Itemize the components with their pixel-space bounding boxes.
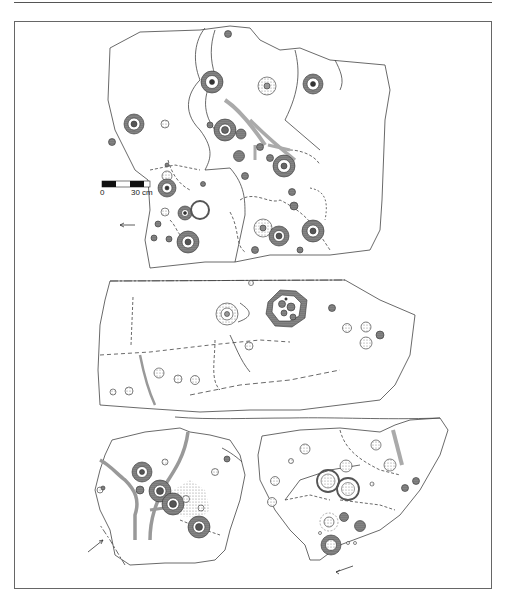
lower-left-cupules bbox=[97, 456, 230, 538]
scale-start-label: 0 bbox=[100, 188, 104, 197]
lower-right-cupules bbox=[268, 440, 420, 555]
north-arrow-lower-left bbox=[88, 540, 103, 552]
north-arrow-lower-right bbox=[336, 566, 353, 574]
north-arrow-upper bbox=[120, 223, 135, 227]
scale-bar bbox=[102, 181, 150, 187]
site-plan-drawing bbox=[0, 0, 508, 605]
upper-cupules bbox=[109, 31, 325, 254]
middle-cupules bbox=[110, 281, 384, 396]
upper-rock-surface bbox=[108, 26, 390, 268]
scale-end-label: 30 cm bbox=[131, 188, 153, 197]
